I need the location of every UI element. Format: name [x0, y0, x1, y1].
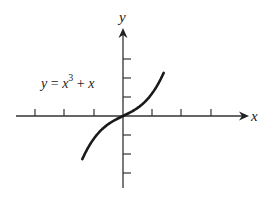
equation-label: y = x3 + x — [39, 72, 95, 91]
y-axis-label: y — [117, 9, 126, 25]
cubic-function-graph: x y y = x3 + x — [0, 0, 268, 198]
x-axis-label: x — [250, 108, 258, 124]
